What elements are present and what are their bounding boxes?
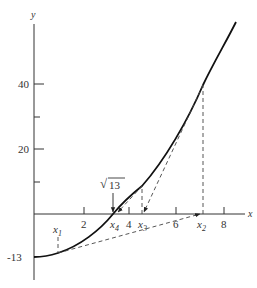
x-tick-label-6: 6: [173, 218, 179, 230]
root-annotation: √ 13: [100, 176, 125, 212]
x-axis-label: x: [247, 208, 253, 219]
x4-label: x4: [109, 218, 119, 233]
x-tick-label-4: 4: [126, 218, 132, 230]
x1-label: x1: [52, 223, 62, 238]
tangent-x2-to-x3: [144, 85, 203, 212]
y-tick-label-40: 40: [18, 78, 30, 90]
x-tick-label-8: 8: [221, 218, 227, 230]
newton-method-diagram: y x 40 20 -13 2 4 6 8 √ 13: [0, 0, 257, 288]
y-tick-label-20: 20: [18, 143, 30, 155]
root-label: 13: [109, 179, 121, 191]
function-curve: [34, 22, 236, 257]
y-intercept-label: -13: [7, 251, 22, 263]
x3-label: x3: [137, 218, 147, 233]
sqrt-symbol: √: [100, 176, 108, 191]
x2-label: x2: [196, 218, 206, 233]
x-tick-label-2: 2: [81, 218, 87, 230]
axes: y x 40 20 -13 2 4 6 8: [7, 9, 253, 280]
y-axis-label: y: [30, 9, 36, 20]
